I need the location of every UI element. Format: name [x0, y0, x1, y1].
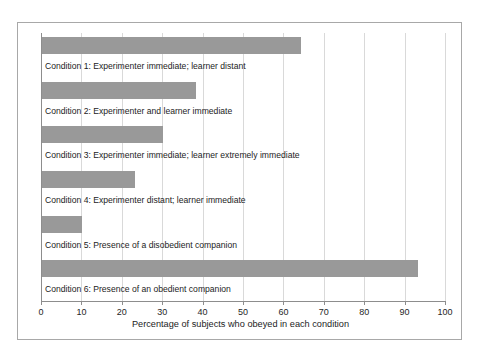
- tick-label: 0: [26, 307, 56, 318]
- tick-mark: [324, 301, 325, 305]
- tick-mark: [283, 301, 284, 305]
- tick-label: 80: [349, 307, 379, 318]
- bar-category-label: Condition 1: Experimenter immediate; lea…: [45, 61, 246, 71]
- bar[interactable]: [42, 216, 82, 233]
- tick-label: 60: [268, 307, 298, 318]
- bar-group: Condition 4: Experimenter distant; learn…: [42, 167, 446, 212]
- tick-label: 90: [390, 307, 420, 318]
- plot-area: 0102030405060708090100 Condition 1: Expe…: [41, 33, 445, 301]
- bar[interactable]: [42, 260, 418, 277]
- tick-label: 40: [188, 307, 218, 318]
- tick-label: 50: [228, 307, 258, 318]
- tick-mark: [122, 301, 123, 305]
- bar-group: Condition 2: Experimenter and learner im…: [42, 78, 446, 123]
- bar-category-label: Condition 4: Experimenter distant; learn…: [45, 195, 246, 205]
- tick-label: 70: [309, 307, 339, 318]
- tick-mark: [162, 301, 163, 305]
- tick-label: 30: [147, 307, 177, 318]
- bar[interactable]: [42, 126, 163, 143]
- bar-group: Condition 6: Presence of an obedient com…: [42, 256, 446, 301]
- bar-category-label: Condition 3: Experimenter immediate; lea…: [45, 150, 300, 160]
- tick-mark: [203, 301, 204, 305]
- tick-label: 10: [66, 307, 96, 318]
- bar[interactable]: [42, 171, 135, 188]
- tick-label: 20: [107, 307, 137, 318]
- bar-category-label: Condition 2: Experimenter and learner im…: [45, 106, 232, 116]
- tick-mark: [243, 301, 244, 305]
- bar[interactable]: [42, 82, 196, 99]
- tick-mark: [405, 301, 406, 305]
- bar[interactable]: [42, 37, 301, 54]
- bar-category-label: Condition 5: Presence of a disobedient c…: [45, 240, 237, 250]
- chart-screenshot: { "chart_data": { "type": "bar", "orient…: [0, 0, 479, 355]
- x-axis-title: Percentage of subjects who obeyed in eac…: [18, 319, 463, 329]
- bar-group: Condition 5: Presence of a disobedient c…: [42, 212, 446, 257]
- tick-mark: [41, 301, 42, 305]
- bar-group: Condition 1: Experimenter immediate; lea…: [42, 33, 446, 78]
- bar-group: Condition 3: Experimenter immediate; lea…: [42, 122, 446, 167]
- bar-category-label: Condition 6: Presence of an obedient com…: [45, 284, 231, 294]
- chart-frame: 0102030405060708090100 Condition 1: Expe…: [17, 22, 462, 340]
- tick-mark: [364, 301, 365, 305]
- tick-mark: [81, 301, 82, 305]
- tick-label: 100: [430, 307, 460, 318]
- tick-mark: [445, 301, 446, 305]
